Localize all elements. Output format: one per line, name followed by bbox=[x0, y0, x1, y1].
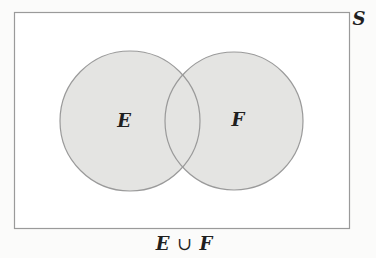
universe-label: S bbox=[353, 8, 366, 29]
set-f-label: F bbox=[231, 109, 246, 130]
venn-diagram: E F S E ∪ F bbox=[0, 0, 376, 258]
union-symbol: ∪ bbox=[177, 233, 192, 254]
set-e-label: E bbox=[116, 110, 131, 131]
caption-set-e: E bbox=[155, 233, 170, 254]
caption-set-f: F bbox=[199, 233, 214, 254]
caption: E ∪ F bbox=[155, 233, 214, 254]
